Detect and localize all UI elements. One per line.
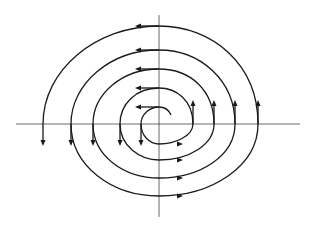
arrow-up-icon xyxy=(191,100,196,106)
arrow-right-icon xyxy=(177,142,183,147)
spiral-path xyxy=(43,26,258,196)
arrow-down-icon xyxy=(139,140,144,146)
arrow-down-icon xyxy=(41,140,46,146)
spiral-curve xyxy=(43,26,258,196)
arrow-down-icon xyxy=(118,140,123,146)
arrow-up-icon xyxy=(233,100,238,106)
arrow-up-icon xyxy=(212,100,217,106)
spiral-phase-portrait xyxy=(0,0,311,227)
arrow-down-icon xyxy=(69,140,74,146)
arrow-right-icon xyxy=(177,158,183,163)
arrow-down-icon xyxy=(91,140,96,146)
direction-arrows xyxy=(41,24,261,199)
